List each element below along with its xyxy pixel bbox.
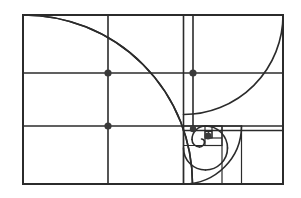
figure-root: Fibonacci golden spiral construction bbox=[0, 0, 301, 198]
dot-upper-left bbox=[104, 69, 111, 76]
fibonacci-spiral-diagram: Fibonacci golden spiral construction bbox=[0, 0, 301, 198]
dot-lower-left bbox=[104, 122, 111, 129]
dot-inner-b bbox=[205, 133, 212, 140]
dot-upper-right bbox=[189, 69, 196, 76]
diagram-background bbox=[0, 0, 301, 198]
dot-inner-a bbox=[190, 126, 196, 132]
